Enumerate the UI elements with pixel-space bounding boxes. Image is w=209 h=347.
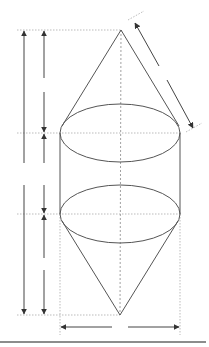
top-cone-right-edge bbox=[121, 30, 179, 126]
slant-guide-top bbox=[128, 11, 144, 20]
solid-outline bbox=[60, 30, 180, 315]
cone-cylinder-diagram bbox=[0, 0, 209, 347]
guide-lines bbox=[17, 11, 202, 335]
slant-height-arrow-down bbox=[167, 80, 193, 128]
top-cone-left-edge bbox=[62, 30, 121, 126]
axis-line bbox=[120, 30, 121, 315]
slant-guide-bottom bbox=[186, 123, 202, 132]
bottom-cone-left-edge bbox=[62, 221, 120, 315]
bottom-cone-right-edge bbox=[120, 221, 178, 315]
dimension-arrows bbox=[24, 23, 193, 327]
